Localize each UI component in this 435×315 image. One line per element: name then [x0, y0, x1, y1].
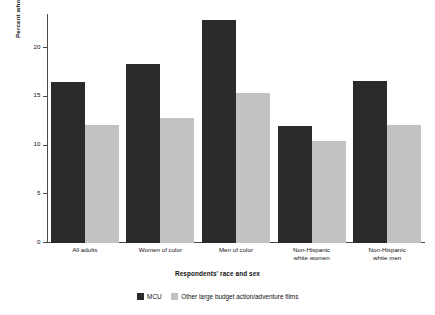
y-axis-tick-label: 0: [37, 238, 40, 245]
legend-swatch-icon: [171, 293, 178, 300]
bar-mcu: [278, 126, 312, 243]
bar-other: [85, 125, 119, 243]
y-axis-tick-label: 10: [34, 140, 41, 147]
bar-other: [387, 125, 421, 243]
bar-other: [312, 141, 346, 243]
legend-swatch-icon: [137, 293, 144, 300]
bar-mcu: [51, 82, 85, 243]
legend-item: Other large budget action/adventure film…: [171, 293, 299, 300]
legend-label: MCU: [147, 293, 162, 300]
x-axis-category-label: Non-Hispanic white women: [274, 246, 350, 263]
x-axis-category-label: All adults: [47, 246, 123, 254]
y-axis-tick-label: 15: [34, 91, 41, 98]
legend-item: MCU: [137, 293, 162, 300]
bar-mcu: [126, 64, 160, 243]
y-axis-title: Percent who saw film: [14, 0, 21, 70]
bar-groups: [47, 14, 425, 243]
bar-other: [160, 118, 194, 243]
y-axis-tick-label: 5: [37, 189, 40, 196]
x-axis-category-label: Women of color: [123, 246, 199, 254]
bar-mcu: [202, 20, 236, 243]
bar-mcu: [353, 81, 387, 243]
x-axis-category-label: Men of color: [198, 246, 274, 254]
y-axis-tick-label: 20: [34, 43, 41, 50]
x-axis-category-label: Non-Hispanic white men: [349, 246, 425, 263]
bar-chart: Percent who saw film 05101520 All adults…: [0, 0, 435, 315]
legend-label: Other large budget action/adventure film…: [181, 293, 298, 300]
x-axis-title: Respondents' race and sex: [0, 270, 435, 277]
x-axis-category-labels: All adultsWomen of colorMen of colorNon-…: [47, 246, 425, 272]
chart-legend: MCUOther large budget action/adventure f…: [0, 293, 435, 300]
plot-area: 05101520: [47, 14, 425, 243]
bar-other: [236, 93, 270, 243]
